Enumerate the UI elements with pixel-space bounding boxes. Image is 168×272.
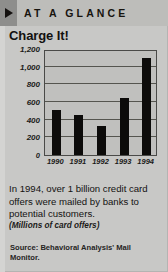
x-axis-tick-label: 1993 [115, 158, 132, 166]
kicker-label: AT A GLANCE [24, 8, 128, 19]
plot-area [44, 50, 157, 156]
y-axis-labels: 2004006008001,0001,2000 [7, 50, 42, 156]
gridline [45, 66, 156, 67]
page-title: Charge It! [9, 29, 69, 42]
y-axis-tick-label: 800 [27, 81, 40, 89]
bar [97, 126, 106, 155]
y-axis-tick-label: 1,000 [20, 64, 40, 72]
bar [120, 98, 129, 155]
bar-chart: 2004006008001,0001,2000 1990199119921993… [7, 50, 163, 178]
header-band: AT A GLANCE [0, 0, 168, 26]
y-axis-tick-label: 400 [27, 117, 40, 125]
bar [74, 115, 83, 155]
y-axis-tick-label: 600 [27, 99, 40, 107]
x-axis-tick-label: 1992 [92, 158, 109, 166]
source-note: Source: Behavioral Analysis' Mail Monito… [10, 243, 160, 262]
x-axis-tick-label: 1994 [137, 158, 154, 166]
left-margin-strip [0, 26, 5, 272]
x-axis-labels: 19901991199219931994 [44, 158, 157, 170]
triangle-glyph [5, 8, 13, 18]
bar [142, 58, 151, 155]
gridline [45, 101, 156, 102]
y-axis-tick-label: 200 [27, 134, 40, 142]
y-axis-tick-label: 1,200 [20, 46, 40, 54]
y-axis-tick-label: 0 [36, 152, 40, 160]
deck-text: In 1994, over 1 billion credit card offe… [9, 183, 161, 221]
bar [52, 110, 61, 155]
x-axis-tick-label: 1991 [70, 158, 87, 166]
play-triangle-icon [0, 0, 17, 26]
at-a-glance-infographic: AT A GLANCE Charge It! 2004006008001,000… [0, 0, 168, 272]
gridline [45, 83, 156, 84]
gridline [45, 119, 156, 120]
x-axis-tick-label: 1990 [47, 158, 64, 166]
units-note: (Millions of card offers) [9, 222, 99, 230]
